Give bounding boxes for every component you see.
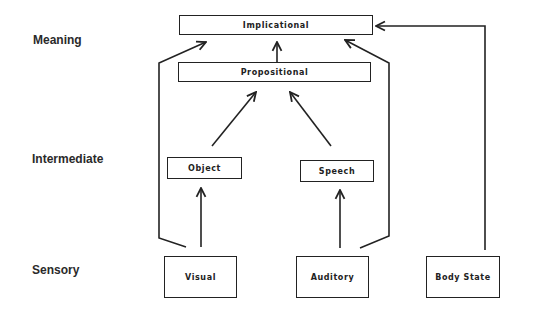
box-visual: Visual xyxy=(164,256,237,298)
arrow-object-to-propositional xyxy=(212,92,256,146)
level-label-intermediate: Intermediate xyxy=(32,152,103,166)
box-body-state: Body State xyxy=(426,256,500,298)
box-speech: Speech xyxy=(300,160,374,182)
box-propositional: Propositional xyxy=(178,62,371,82)
level-label-meaning: Meaning xyxy=(33,33,82,47)
arrow-speech-to-propositional xyxy=(290,92,331,146)
box-implicational: Implicational xyxy=(179,15,373,35)
box-object: Object xyxy=(167,157,242,179)
box-auditory: Auditory xyxy=(296,256,369,298)
arrow-bodystate-to-implicational xyxy=(376,26,485,250)
level-label-sensory: Sensory xyxy=(32,263,79,277)
